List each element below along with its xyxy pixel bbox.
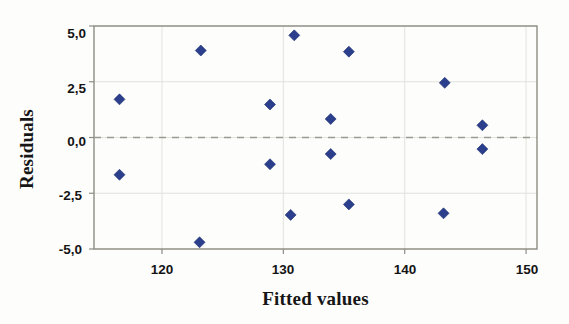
data-point (195, 45, 206, 56)
data-point (114, 94, 125, 105)
data-point (477, 120, 488, 131)
data-point (114, 169, 125, 180)
plot-canvas (0, 0, 569, 324)
data-point (438, 208, 449, 219)
data-point (325, 149, 336, 160)
axis-ticks (89, 26, 526, 254)
data-point (439, 77, 450, 88)
data-point (264, 99, 275, 110)
data-point (285, 209, 296, 220)
data-point (343, 46, 354, 57)
data-points-group (114, 30, 488, 248)
data-point (194, 237, 205, 248)
data-point (325, 113, 336, 124)
data-point (289, 30, 300, 41)
data-point (343, 199, 354, 210)
residuals-vs-fitted-scatter-chart: Residuals Fitted values 5,0 2,5 0,0 -2,5… (0, 0, 569, 324)
data-point (264, 159, 275, 170)
data-point (477, 144, 488, 155)
